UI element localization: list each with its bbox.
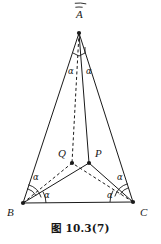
side-AB xyxy=(23,33,79,203)
vertex-dot-p xyxy=(87,161,91,165)
angle-alpha-c-lower: α xyxy=(107,190,113,200)
vertex-dot-b xyxy=(21,201,25,205)
cevian-CQ xyxy=(72,163,133,202)
arc-apex-b xyxy=(75,3,86,4)
angle-alpha-b-upper: α xyxy=(33,172,39,182)
side-BC xyxy=(23,202,133,203)
vertex-label-a: A xyxy=(75,8,83,20)
angle-alpha-b-lower: α xyxy=(44,190,50,200)
angle-alpha-apex-left: α xyxy=(68,66,74,76)
right-angle-marker-group xyxy=(73,47,85,56)
vertex-label-p: P xyxy=(94,147,102,159)
angle-alpha-apex-right: α xyxy=(86,66,92,76)
cevian-AP xyxy=(79,33,89,163)
figure-caption: 图 10.3(7) xyxy=(0,220,161,235)
vertex-dot-c xyxy=(131,200,135,204)
geometry-figure-page: ABCQP αααααα 图 10.3(7) xyxy=(0,0,161,244)
vertex-dot-a xyxy=(77,31,81,35)
vertex-dot-q xyxy=(70,161,74,165)
side-AC xyxy=(79,33,133,202)
arc-vertex-b-1 xyxy=(27,189,36,196)
vertex-label-c: C xyxy=(140,206,148,218)
angle-alpha-c-upper: α xyxy=(117,172,123,182)
vertex-label-b: B xyxy=(7,206,14,218)
right-angle-mark-apex xyxy=(73,47,85,56)
geometry-diagram: ABCQP αααααα xyxy=(0,0,161,244)
cevian-BP xyxy=(23,163,89,203)
vertex-label-q: Q xyxy=(58,147,66,159)
